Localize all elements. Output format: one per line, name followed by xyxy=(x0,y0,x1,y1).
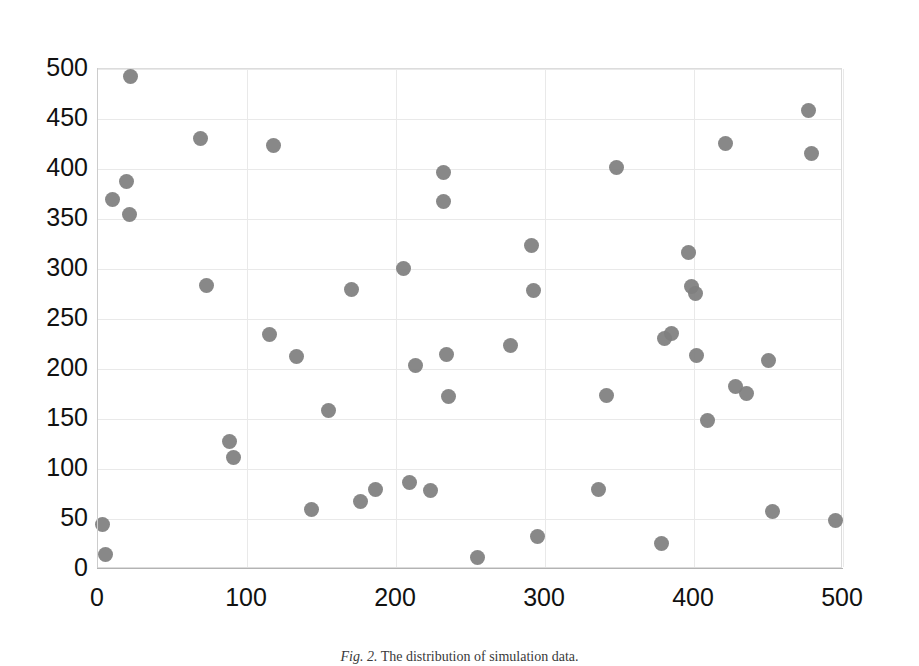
scatter-point xyxy=(396,261,411,276)
y-axis-tick-labels: 050100150200250300350400450500 xyxy=(8,0,88,666)
scatter-point xyxy=(368,482,383,497)
x-axis-tick-label: 100 xyxy=(201,585,291,610)
scatter-point xyxy=(436,194,451,209)
x-axis-tick-label: 300 xyxy=(499,585,589,610)
y-axis-tick-label: 100 xyxy=(18,455,88,480)
scatter-point xyxy=(119,174,134,189)
y-axis-tick-label: 200 xyxy=(18,355,88,380)
scatter-point xyxy=(304,502,319,517)
scatter-point xyxy=(765,504,780,519)
scatter-point xyxy=(123,69,138,84)
scatter-point xyxy=(591,482,606,497)
y-axis-tick-label: 450 xyxy=(18,105,88,130)
scatter-point xyxy=(226,450,241,465)
gridline-horizontal xyxy=(98,119,841,120)
scatter-point xyxy=(289,349,304,364)
scatter-point xyxy=(718,136,733,151)
scatter-point xyxy=(700,413,715,428)
scatter-point xyxy=(344,282,359,297)
scatter-point xyxy=(688,286,703,301)
scatter-point xyxy=(804,146,819,161)
figure-caption-text: The distribution of simulation data. xyxy=(381,649,579,664)
gridline-vertical xyxy=(396,69,397,567)
scatter-point xyxy=(739,386,754,401)
y-axis-tick-label: 400 xyxy=(18,155,88,180)
scatter-point xyxy=(353,494,368,509)
scatter-point xyxy=(222,434,237,449)
x-axis-tick-label: 400 xyxy=(648,585,738,610)
scatter-point xyxy=(470,550,485,565)
gridline-horizontal xyxy=(98,169,841,170)
scatter-point xyxy=(664,326,679,341)
x-axis-tick-labels: 0100200300400500 xyxy=(0,585,919,617)
y-axis-tick-label: 350 xyxy=(18,205,88,230)
y-axis-tick-label: 500 xyxy=(18,55,88,80)
y-axis-tick-label: 50 xyxy=(18,505,88,530)
scatter-point xyxy=(439,347,454,362)
figure-caption-label: Fig. 2. xyxy=(340,649,377,664)
gridline-horizontal xyxy=(98,69,841,70)
gridline-horizontal xyxy=(98,519,841,520)
gridline-vertical xyxy=(843,69,844,567)
scatter-point xyxy=(828,513,843,528)
scatter-point xyxy=(689,348,704,363)
scatter-point xyxy=(193,131,208,146)
y-axis-tick-label: 150 xyxy=(18,405,88,430)
scatter-point xyxy=(408,358,423,373)
gridline-vertical xyxy=(247,69,248,567)
x-axis-tick-label: 200 xyxy=(350,585,440,610)
gridline-horizontal xyxy=(98,469,841,470)
scatter-point xyxy=(122,207,137,222)
y-axis-tick-label: 250 xyxy=(18,305,88,330)
scatter-point xyxy=(503,338,518,353)
x-axis-line xyxy=(97,568,843,569)
scatter-point xyxy=(199,278,214,293)
gridline-horizontal xyxy=(98,319,841,320)
scatter-point xyxy=(761,353,776,368)
scatter-point xyxy=(599,388,614,403)
scatter-point xyxy=(681,245,696,260)
figure-caption: Fig. 2. The distribution of simulation d… xyxy=(0,648,919,665)
gridline-horizontal xyxy=(98,269,841,270)
x-axis-tick-label: 0 xyxy=(52,585,142,610)
scatter-point xyxy=(98,547,113,562)
scatter-point xyxy=(524,238,539,253)
figure-container: 050100150200250300350400450500 010020030… xyxy=(0,0,919,666)
scatter-point xyxy=(654,536,669,551)
scatter-point xyxy=(436,165,451,180)
scatter-point xyxy=(530,529,545,544)
x-axis-tick-label: 500 xyxy=(797,585,887,610)
scatter-point xyxy=(441,389,456,404)
scatter-plot-area xyxy=(97,68,842,568)
scatter-point xyxy=(262,327,277,342)
scatter-point xyxy=(266,138,281,153)
scatter-point xyxy=(801,103,816,118)
scatter-point xyxy=(402,475,417,490)
scatter-point xyxy=(609,160,624,175)
scatter-point xyxy=(526,283,541,298)
gridline-vertical xyxy=(694,69,695,567)
y-axis-tick-label: 0 xyxy=(18,555,88,580)
gridline-horizontal xyxy=(98,419,841,420)
gridline-vertical xyxy=(545,69,546,567)
y-axis-line xyxy=(97,68,98,569)
gridline-horizontal xyxy=(98,219,841,220)
scatter-point xyxy=(105,192,120,207)
y-axis-tick-label: 300 xyxy=(18,255,88,280)
gridline-horizontal xyxy=(98,369,841,370)
scatter-point xyxy=(423,483,438,498)
scatter-point xyxy=(321,403,336,418)
